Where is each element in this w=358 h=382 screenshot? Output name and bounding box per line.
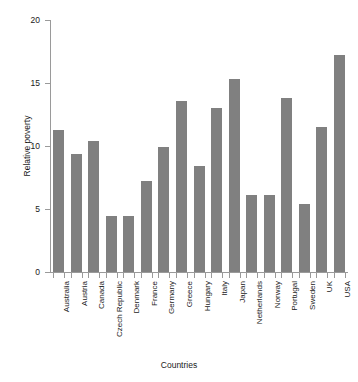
x-axis-tick-label: Netherlands — [255, 281, 264, 351]
bar — [229, 79, 240, 272]
bar — [194, 166, 205, 272]
x-axis-tick — [152, 273, 153, 278]
x-axis-tick-label: Italy — [220, 281, 229, 351]
bar — [123, 216, 134, 272]
x-axis-tick — [99, 273, 100, 278]
x-axis-tick — [229, 273, 230, 278]
x-axis-tick — [292, 273, 293, 278]
x-axis-tick — [345, 273, 346, 278]
x-axis-tick — [194, 273, 195, 278]
x-axis-tick — [169, 273, 170, 278]
x-axis-tick-label: Japan — [238, 281, 247, 351]
bar — [71, 154, 82, 272]
bar — [176, 101, 187, 272]
x-axis-tick — [334, 273, 335, 278]
y-axis-tick-label: 10 — [6, 142, 40, 151]
bar — [334, 55, 345, 272]
x-axis-tick — [64, 273, 65, 278]
x-axis-tick — [158, 273, 159, 278]
x-axis-tick — [222, 273, 223, 278]
x-axis-tick — [82, 273, 83, 278]
x-axis-tick — [211, 273, 212, 278]
x-axis-tick-label: Sweden — [308, 281, 317, 351]
x-axis-tick — [117, 273, 118, 278]
x-axis-tick-label: France — [150, 281, 159, 351]
x-axis-tick — [187, 273, 188, 278]
bar — [53, 130, 64, 272]
x-axis-tick-label: USA — [343, 281, 352, 351]
y-axis-tick-label: 20 — [6, 16, 40, 25]
bar — [158, 147, 169, 272]
plot-area — [50, 20, 348, 272]
x-axis-tick — [141, 273, 142, 278]
bar — [88, 141, 99, 272]
x-axis-tick — [123, 273, 124, 278]
x-axis-tick — [134, 273, 135, 278]
x-axis-tick — [205, 273, 206, 278]
x-axis-tick-label: Austria — [80, 281, 89, 351]
x-axis-tick — [53, 273, 54, 278]
x-axis-title: Countries — [0, 360, 358, 370]
x-axis-tick — [246, 273, 247, 278]
x-axis-tick — [316, 273, 317, 278]
x-axis-tick-label: Portugal — [290, 281, 299, 351]
x-axis-tick — [327, 273, 328, 278]
x-axis-tick — [281, 273, 282, 278]
x-axis-tick-label: Canada — [97, 281, 106, 351]
bar — [246, 195, 257, 272]
bar — [316, 127, 327, 272]
bar — [106, 216, 117, 272]
bar — [141, 181, 152, 272]
bar — [281, 98, 292, 272]
x-axis-tick — [240, 273, 241, 278]
x-axis-tick — [106, 273, 107, 278]
x-axis-tick-label: Greece — [185, 281, 194, 351]
x-axis-tick — [299, 273, 300, 278]
x-axis-tick-label: UK — [325, 281, 334, 351]
x-axis-tick — [176, 273, 177, 278]
y-axis-tick-label: 15 — [6, 79, 40, 88]
bar — [264, 195, 275, 272]
x-axis-tick-label: Germany — [167, 281, 176, 351]
y-axis-tick-label: 5 — [6, 205, 40, 214]
x-axis-tick — [71, 273, 72, 278]
x-axis-tick — [275, 273, 276, 278]
x-axis-tick — [88, 273, 89, 278]
bar-chart: Relative poverty 05101520 AustraliaAustr… — [0, 0, 358, 382]
x-axis-tick — [257, 273, 258, 278]
x-axis-line — [50, 272, 348, 273]
bar — [211, 108, 222, 272]
y-axis-tick — [45, 272, 51, 273]
x-axis-tick-label: Czech Republic — [115, 281, 124, 351]
x-axis-tick — [264, 273, 265, 278]
x-axis-tick-label: Australia — [62, 281, 71, 351]
x-axis-tick-label: Denmark — [132, 281, 141, 351]
x-axis-tick-label: Hungary — [203, 281, 212, 351]
bar — [299, 204, 310, 272]
x-axis-tick — [310, 273, 311, 278]
y-axis-tick-label: 0 — [6, 268, 40, 277]
x-axis-tick-label: Norway — [273, 281, 282, 351]
